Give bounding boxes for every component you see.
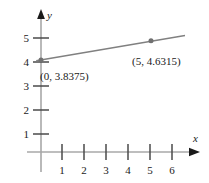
x-tick-label-4: 4 [121, 165, 135, 176]
x-axis-arrow-icon [189, 148, 200, 156]
chart-plot-area [0, 0, 209, 183]
y-axis-arrow-icon [37, 9, 45, 19]
x-tick-label-1: 1 [55, 165, 69, 176]
x-tick-label-2: 2 [77, 165, 91, 176]
data-point-marker [149, 38, 154, 43]
annotation-y-intercept: (0, 3.8375) [40, 71, 89, 82]
y-tick-label-5: 5 [15, 33, 29, 44]
y-tick-label-4: 4 [15, 57, 29, 68]
x-tick-label-6: 6 [165, 165, 179, 176]
x-axis-label: x [193, 133, 198, 144]
x-tick-label-5: 5 [143, 165, 157, 176]
y-tick-label-1: 1 [15, 129, 29, 140]
y-axis-label: y [47, 10, 52, 21]
data-point-marker [39, 57, 44, 62]
chart-figure: 5 4 3 2 1 1 2 3 4 5 6 y x (0, 3.8375) (5… [0, 0, 209, 183]
x-tick-label-3: 3 [99, 165, 113, 176]
y-tick-label-2: 2 [15, 105, 29, 116]
y-tick-label-3: 3 [15, 81, 29, 92]
annotation-second-point: (5, 4.6315) [132, 56, 181, 67]
